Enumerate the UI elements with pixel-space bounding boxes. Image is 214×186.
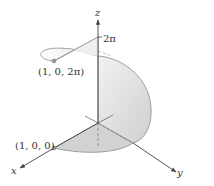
- helicoid-surface-figure: z x y 2π (1, 0, 2π) (1, 0, 0): [0, 0, 214, 186]
- top-hidden-dashed: [98, 51, 112, 56]
- x-axis-label: x: [11, 165, 17, 176]
- y-axis-label: y: [176, 167, 183, 178]
- z-axis-label: z: [94, 7, 101, 18]
- x-axis: [20, 148, 54, 168]
- y-axis: [133, 143, 176, 172]
- z-tick-label: 2π: [103, 33, 116, 44]
- surface-upper-fill: [72, 37, 98, 56]
- point-end-marker: [52, 59, 56, 63]
- point-end-label: (1, 0, 2π): [38, 66, 84, 77]
- neg-y-axis: [85, 116, 98, 123]
- point-start-label: (1, 0, 0): [15, 140, 55, 151]
